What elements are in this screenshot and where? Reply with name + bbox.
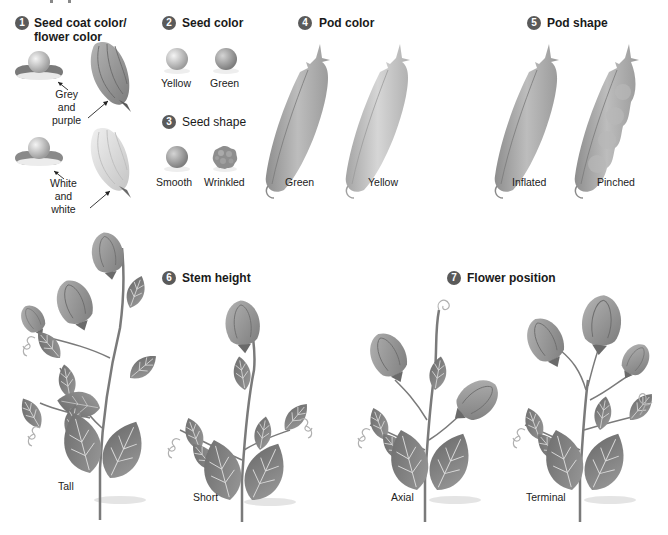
arrow-to-white-flower: [88, 188, 114, 210]
label-white-and-white: White and white: [50, 177, 77, 216]
wrinkled-seed-illustration: [210, 144, 240, 174]
axial-plant-illustration: [355, 300, 505, 530]
section-title-7: Flower position: [467, 271, 556, 285]
inflated-pod-illustration: [487, 36, 567, 196]
yellow-pod-illustration: [338, 36, 418, 196]
white-seed-illustration: [14, 134, 64, 169]
label-yellow-pod: Yellow: [368, 176, 398, 188]
pinched-pod-illustration: [567, 36, 647, 196]
step-badge-2: 2: [162, 16, 176, 30]
section-title-1-line1: Seed coat color/: [34, 16, 127, 30]
green-pod-illustration: [258, 36, 338, 196]
label-tall: Tall: [58, 480, 74, 492]
smooth-seed-illustration: [163, 144, 193, 174]
step-badge-3: 3: [162, 115, 176, 129]
label-short: Short: [193, 491, 218, 503]
grey-seed-illustration: [14, 48, 64, 83]
label-yellow-seed: Yellow: [161, 77, 191, 89]
arrow-to-purple-flower: [86, 98, 112, 120]
label-grey-and-purple: Grey and purple: [52, 88, 81, 127]
label-green-seed: Green: [210, 77, 239, 89]
green-seed-illustration: [212, 46, 242, 76]
section-title-5: Pod shape: [547, 16, 608, 30]
step-badge-7: 7: [447, 271, 461, 285]
label-green-pod: Green: [285, 176, 314, 188]
section-title-4: Pod color: [319, 16, 374, 30]
label-axial: Axial: [391, 491, 414, 503]
step-badge-1: 1: [15, 16, 29, 30]
step-badge-4: 4: [298, 16, 312, 30]
label-pinched: Pinched: [597, 176, 635, 188]
label-wrinkled: Wrinkled: [204, 176, 245, 188]
label-and-1: and: [52, 101, 81, 114]
section-title-2: Seed color: [182, 16, 243, 30]
label-smooth: Smooth: [156, 176, 192, 188]
step-badge-6: 6: [162, 271, 176, 285]
section-title-3: Seed shape: [182, 115, 246, 129]
tall-plant-illustration: [10, 228, 160, 528]
arrow-to-white-seed: [52, 169, 72, 181]
yellow-seed-illustration: [163, 46, 193, 76]
label-purple: purple: [52, 114, 81, 127]
label-terminal: Terminal: [526, 491, 566, 503]
label-white-2: white: [50, 203, 77, 216]
step-badge-5: 5: [527, 16, 541, 30]
short-plant-illustration: [160, 300, 310, 530]
label-inflated: Inflated: [512, 176, 546, 188]
section-title-6: Stem height: [182, 271, 251, 285]
arrow-to-grey-seed: [56, 80, 76, 92]
label-and-2: and: [50, 190, 77, 203]
cutoff-heading-remnant: [0, 0, 120, 4]
